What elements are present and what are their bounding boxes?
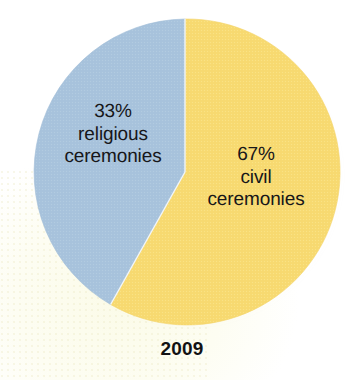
slice-percent-religious: 33%: [38, 101, 188, 124]
slice-name-religious-line1: religious: [38, 124, 188, 147]
slice-percent-civil: 67%: [192, 144, 320, 167]
slice-label-religious: 33% religious ceremonies: [38, 101, 188, 169]
chart-plot-area: 33% religious ceremonies 67% civil cerem…: [0, 0, 364, 380]
slice-label-civil: 67% civil ceremonies: [192, 144, 320, 212]
slice-name-religious-line2: ceremonies: [38, 146, 188, 169]
chart-caption-year: 2009: [0, 338, 364, 360]
slice-name-civil-line2: ceremonies: [192, 189, 320, 212]
pie-chart-figure: 33% religious ceremonies 67% civil cerem…: [0, 0, 364, 380]
slice-name-civil-line1: civil: [192, 167, 320, 190]
